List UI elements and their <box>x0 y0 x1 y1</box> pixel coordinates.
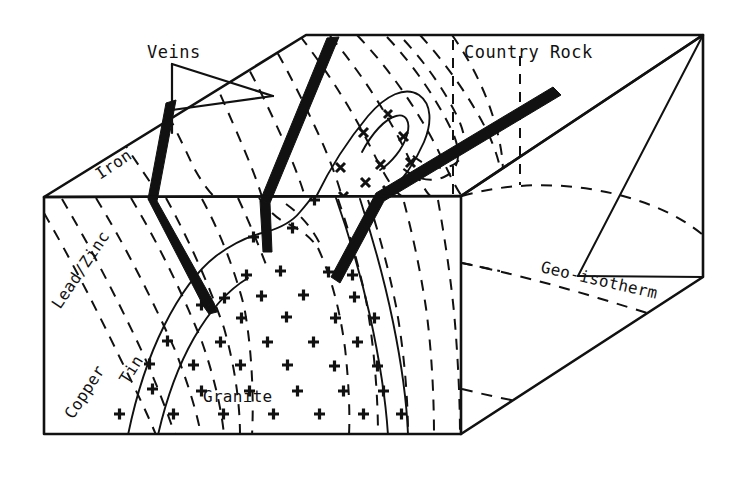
label-granite: Granite <box>203 387 273 406</box>
label-lead-zinc: Lead/Zinc <box>48 227 114 312</box>
vein-2 <box>260 37 339 252</box>
geology-block-diagram-svg: Veins Country Rock Geo-isotherm Iron Lea… <box>0 0 743 478</box>
label-copper: Copper <box>60 362 108 422</box>
label-veins: Veins <box>147 42 201 62</box>
geo-isotherm-leader <box>462 263 500 271</box>
label-iron: Iron <box>92 145 136 183</box>
right-face-edge <box>461 35 703 434</box>
veins-leader-arm-upper <box>172 64 273 96</box>
label-geo-isotherm: Geo-isotherm <box>539 257 659 302</box>
right-face-diagonal-upper <box>578 35 703 276</box>
label-country-rock: Country Rock <box>464 42 593 62</box>
vein-group <box>148 37 561 314</box>
leader-lines <box>172 40 520 271</box>
right-face-content <box>462 185 703 407</box>
block-edges <box>44 35 703 434</box>
block-diagram-figure: Veins Country Rock Geo-isotherm Iron Lea… <box>0 0 743 478</box>
right-face-geo-isotherms <box>462 185 703 407</box>
